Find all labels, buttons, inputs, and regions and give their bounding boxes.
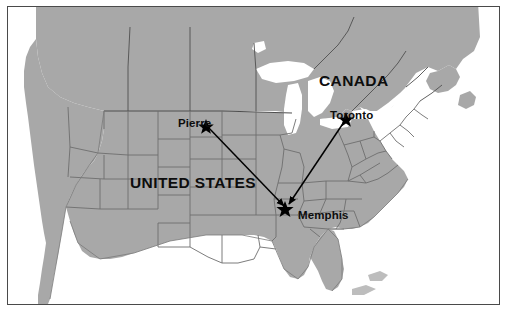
city-label-memphis: Memphis	[298, 210, 349, 222]
country-label-united-states: UNITED STATES	[130, 175, 256, 191]
country-label-canada: CANADA	[319, 73, 389, 89]
city-label-pierre: Pierre	[178, 118, 211, 130]
map-figure: CANADA UNITED STATES Pierre Toronto Memp…	[0, 0, 510, 317]
map-frame: CANADA UNITED STATES Pierre Toronto Memp…	[7, 6, 500, 305]
city-label-toronto: Toronto	[330, 110, 373, 122]
map-graphic	[8, 7, 499, 304]
